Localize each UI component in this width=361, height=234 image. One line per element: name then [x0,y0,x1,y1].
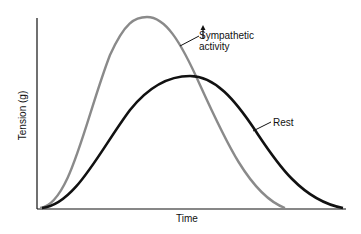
x-axis-label: Time [176,213,198,224]
chart-plot [0,0,361,234]
rest-leader-line [253,122,271,131]
sympathetic-leader-line [180,36,199,46]
y-axis-label: Tension (g) [17,86,28,146]
sympathetic-label-line1: Sympathetic [199,30,254,41]
sympathetic-annotation: Sympathetic activity [199,30,254,52]
sympathetic-label-line2: activity [199,41,254,52]
rest-curve [42,76,343,208]
rest-annotation: Rest [273,117,294,128]
